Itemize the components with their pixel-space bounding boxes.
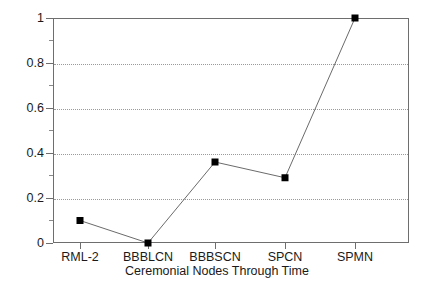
plot-area <box>53 18 409 243</box>
x-axis-label-spcn: SPCN <box>268 251 303 264</box>
y-tick-1 <box>46 18 53 19</box>
y-tick-minor-0.5 <box>49 130 53 131</box>
x-axis-title: Ceremonial Nodes Through Time <box>0 264 434 278</box>
x-axis-label-rml-2: RML-2 <box>61 251 99 264</box>
x-tick-bbbscn <box>215 243 216 249</box>
y-axis-label-0.6: 0.6 <box>27 102 44 114</box>
y-tick-minor-0.9 <box>49 40 53 41</box>
y-tick-0.8 <box>46 63 53 64</box>
gridline-0.8 <box>54 64 408 65</box>
x-tick-spmn <box>355 243 356 249</box>
y-tick-minor-0.3 <box>49 175 53 176</box>
y-tick-0 <box>46 243 53 244</box>
gridline-0.6 <box>54 109 408 110</box>
chart-container: 1 0.8 0.6 0.4 0.2 0 RML-2 BBBLCN BBBSCN … <box>0 0 434 286</box>
y-axis-label-0.8: 0.8 <box>27 57 44 69</box>
x-axis-label-spmn: SPMN <box>337 251 373 264</box>
x-tick-spcn <box>285 243 286 249</box>
gridline-0.4 <box>54 154 408 155</box>
x-axis-label-bbbscn: BBBSCN <box>189 251 240 264</box>
y-tick-minor-0.1 <box>49 220 53 221</box>
gridline-0.2 <box>54 199 408 200</box>
y-axis-label-0.2: 0.2 <box>27 192 44 204</box>
x-axis-label-bbblcn: BBBLCN <box>123 251 173 264</box>
y-tick-0.4 <box>46 153 53 154</box>
y-axis-label-0.4: 0.4 <box>27 147 44 159</box>
y-axis-label-1: 1 <box>37 12 44 24</box>
y-tick-0.6 <box>46 108 53 109</box>
y-tick-minor-0.7 <box>49 85 53 86</box>
x-tick-bbblcn <box>148 243 149 249</box>
x-tick-rml-2 <box>80 243 81 249</box>
y-tick-0.2 <box>46 198 53 199</box>
y-axis-label-0: 0 <box>37 237 44 249</box>
